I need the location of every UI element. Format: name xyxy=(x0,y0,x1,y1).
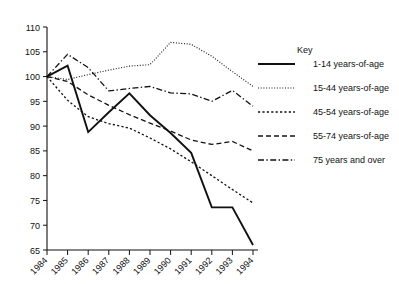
y-axis-tick-label: 65 xyxy=(30,246,40,256)
x-axis-tick-label: 1985 xyxy=(49,255,70,276)
x-axis-tick-label: 1990 xyxy=(152,255,173,276)
series-line-2 xyxy=(47,77,253,203)
legend-label-1: 15-44 years-of-age xyxy=(313,83,389,93)
x-axis-tick-label: 1987 xyxy=(90,255,111,276)
x-axis-tick-label: 1993 xyxy=(214,255,235,276)
y-axis-tick-label: 100 xyxy=(25,72,40,82)
legend-label-2: 45-54 years-of-age xyxy=(313,107,389,117)
y-axis-tick-label: 105 xyxy=(25,47,40,57)
x-axis-tick-label: 1991 xyxy=(172,255,193,276)
legend-label-3: 55-74 years-of-age xyxy=(313,131,389,141)
x-axis-tick-label: 1992 xyxy=(193,255,214,276)
x-axis-tick-label: 1989 xyxy=(131,255,152,276)
series-line-0 xyxy=(47,66,253,245)
x-axis-tick-label: 1986 xyxy=(69,255,90,276)
legend-title: Key xyxy=(297,45,313,55)
x-axis-tick-label: 1988 xyxy=(111,255,132,276)
series-line-3 xyxy=(47,77,253,151)
chart-canvas: 6570758085909510010511019841985198619871… xyxy=(0,0,399,284)
y-axis-tick-label: 110 xyxy=(26,23,40,33)
y-axis-tick-label: 75 xyxy=(30,196,40,206)
legend-label-0: 1-14 years-of-age xyxy=(313,59,384,69)
series-line-1 xyxy=(47,42,253,86)
y-axis-tick-label: 95 xyxy=(30,97,40,107)
y-axis-tick-label: 70 xyxy=(30,221,40,231)
legend-label-4: 75 years and over xyxy=(313,155,385,165)
y-axis-tick-label: 85 xyxy=(30,146,40,156)
y-axis-tick-label: 80 xyxy=(30,171,40,181)
line-chart: 6570758085909510010511019841985198619871… xyxy=(0,0,399,284)
x-axis-tick-label: 1994 xyxy=(234,255,255,276)
y-axis-tick-label: 90 xyxy=(30,122,40,132)
x-axis-tick-label: 1984 xyxy=(28,255,49,276)
